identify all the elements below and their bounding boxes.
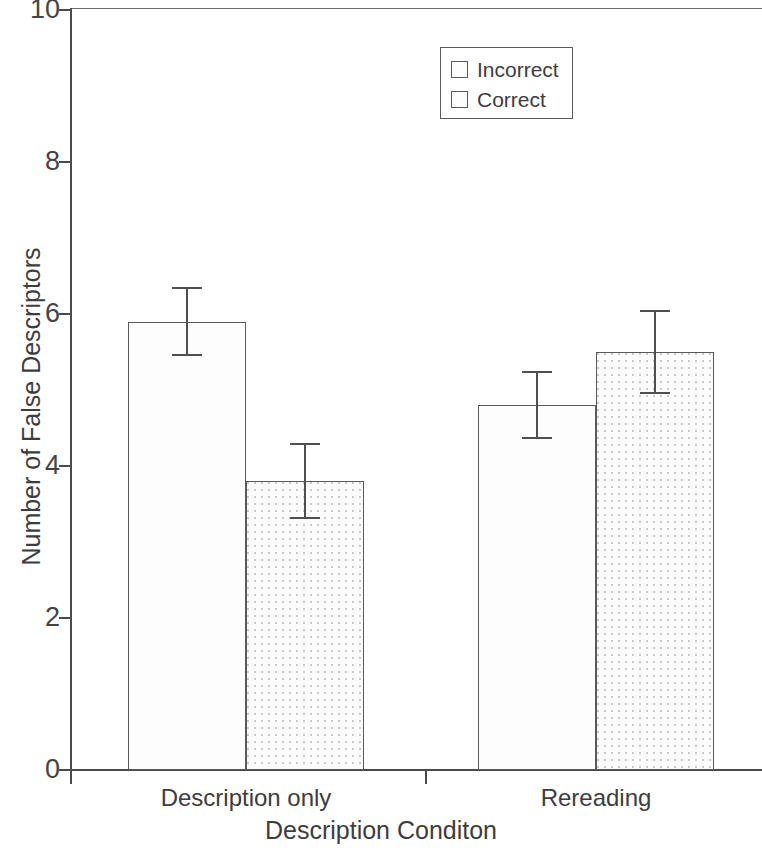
error-bar — [517, 371, 557, 439]
error-bar — [167, 287, 207, 355]
y-tick-mark — [59, 161, 70, 163]
legend-swatch-correct — [451, 91, 468, 108]
bar-incorrect-rereading — [478, 405, 596, 770]
error-bar-cap-bottom — [290, 517, 320, 519]
x-tick-mark — [70, 771, 72, 784]
plot-top-frame — [70, 8, 762, 9]
bar-incorrect-description-only — [128, 322, 246, 770]
legend-label-correct: Correct — [477, 89, 546, 110]
y-tick-label: 10 — [0, 0, 60, 23]
error-bar-stem — [536, 371, 538, 439]
error-bar-stem — [186, 287, 188, 355]
legend-label-incorrect: Incorrect — [477, 59, 559, 80]
error-bar-stem — [654, 310, 656, 394]
error-bar-stem — [304, 443, 306, 519]
error-bar-cap-bottom — [172, 354, 202, 356]
y-tick-mark — [59, 465, 70, 467]
y-tick-mark — [59, 313, 70, 315]
y-tick-label: 0 — [0, 756, 60, 783]
bar-chart-figure: 0246810 Description onlyRereading Incorr… — [0, 0, 762, 852]
x-axis-title: Description Conditon — [0, 818, 762, 843]
y-tick-mark — [59, 769, 70, 771]
y-tick-mark — [59, 9, 70, 11]
x-category-label: Description only — [96, 786, 396, 810]
error-bar-cap-bottom — [640, 392, 670, 394]
y-tick-label: 2 — [0, 604, 60, 631]
error-bar — [285, 443, 325, 519]
y-axis-line — [70, 8, 72, 772]
bar-correct-description-only — [246, 481, 364, 770]
y-tick-label: 8 — [0, 148, 60, 175]
error-bar — [635, 310, 675, 394]
chart-legend: Incorrect Correct — [440, 47, 573, 119]
x-tick-mark — [425, 771, 427, 784]
legend-item-correct[interactable]: Correct — [451, 84, 572, 114]
legend-item-incorrect[interactable]: Incorrect — [451, 54, 572, 84]
legend-swatch-incorrect — [451, 61, 468, 78]
bar-correct-rereading — [596, 352, 714, 770]
y-axis-title: Number of False Descriptors — [19, 242, 44, 572]
y-tick-mark — [59, 617, 70, 619]
error-bar-cap-bottom — [522, 437, 552, 439]
x-category-label: Rereading — [446, 786, 746, 810]
